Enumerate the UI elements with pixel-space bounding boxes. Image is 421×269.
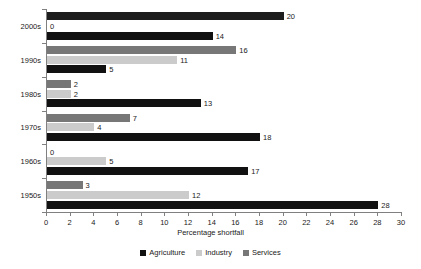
x-tick [117,212,118,216]
x-tick-label: 16 [231,218,239,227]
x-tick [70,212,71,216]
x-axis-line [46,212,401,213]
bar-value-label: 0 [47,147,54,156]
bar-chart: 024681012141618202224262830 2000s1990s19… [0,0,421,269]
bar-value-label: 17 [248,166,259,175]
y-tick [42,212,46,213]
x-tick [306,212,307,216]
bar-1970s-agriculture [47,133,260,141]
bar-1990s-services [47,46,236,54]
y-tick [42,144,46,145]
legend-item-industry[interactable]: Industry [196,248,232,257]
bar-value-label: 7 [130,113,137,122]
bar-1960s-industry [47,157,106,165]
x-tick [46,212,47,216]
x-tick-label: 28 [373,218,381,227]
bar-1980s-services [47,80,71,88]
legend-swatch-icon [196,250,202,256]
x-tick-label: 8 [139,218,143,227]
legend-item-services[interactable]: Services [243,248,281,257]
x-tick-label: 20 [278,218,286,227]
bar-1990s-agriculture [47,65,106,73]
x-tick [377,212,378,216]
x-tick-label: 26 [349,218,357,227]
legend-label: Services [252,248,281,257]
bar-1960s-agriculture [47,167,248,175]
x-tick [354,212,355,216]
bar-value-label: 16 [236,46,247,55]
bar-value-label: 18 [260,133,271,142]
bar-1980s-industry [47,90,71,98]
legend-swatch-icon [140,250,146,256]
x-tick-label: 6 [115,218,119,227]
bar-value-label: 0 [47,21,54,30]
x-tick-label: 10 [160,218,168,227]
bar-1970s-services [47,114,130,122]
x-tick [188,212,189,216]
y-tick [42,9,46,10]
x-tick-label: 14 [207,218,215,227]
x-tick [212,212,213,216]
bar-value-label: 28 [378,200,389,209]
y-tick [42,111,46,112]
y-category-label: 1970s [21,123,46,132]
y-category-label: 1980s [21,89,46,98]
x-axis-title: Percentage shortfall [0,228,421,237]
x-tick-label: 2 [68,218,72,227]
bar-2000s-services [47,12,284,20]
x-tick [401,212,402,216]
y-tick [42,77,46,78]
y-category-label: 2000s [21,21,46,30]
legend-swatch-icon [243,250,249,256]
x-tick-label: 4 [91,218,95,227]
y-category-label: 1990s [21,55,46,64]
y-tick [42,43,46,44]
x-tick [164,212,165,216]
bar-value-label: 5 [106,157,113,166]
chart-legend: AgricultureIndustryServices [0,248,421,257]
x-tick-label: 30 [397,218,405,227]
x-tick [141,212,142,216]
bar-value-label: 4 [94,123,101,132]
bar-value-label: 5 [106,65,113,74]
x-tick-label: 18 [255,218,263,227]
bar-value-label: 2 [71,79,78,88]
bar-1950s-services [47,181,83,189]
bar-value-label: 11 [177,55,188,64]
y-category-label: 1960s [21,157,46,166]
bar-1950s-agriculture [47,201,378,209]
legend-label: Industry [205,248,232,257]
legend-label: Agriculture [149,248,185,257]
bar-1980s-agriculture [47,99,201,107]
bar-1970s-industry [47,123,94,131]
bar-value-label: 13 [201,99,212,108]
bar-value-label: 3 [83,181,90,190]
plot-area: 024681012141618202224262830 2000s1990s19… [46,9,401,212]
x-tick [283,212,284,216]
x-tick [93,212,94,216]
bar-2000s-agriculture [47,32,213,40]
bar-1990s-industry [47,56,177,64]
bar-value-label: 2 [71,89,78,98]
bar-value-label: 12 [189,191,200,200]
x-tick [259,212,260,216]
bar-1950s-industry [47,191,189,199]
x-tick [235,212,236,216]
bar-value-label: 14 [213,31,224,40]
legend-item-agriculture[interactable]: Agriculture [140,248,185,257]
y-category-label: 1950s [21,191,46,200]
x-tick-label: 12 [184,218,192,227]
y-tick [42,178,46,179]
x-tick-label: 22 [302,218,310,227]
bar-value-label: 20 [284,12,295,21]
x-tick-label: 24 [326,218,334,227]
x-tick [330,212,331,216]
x-tick-label: 0 [44,218,48,227]
